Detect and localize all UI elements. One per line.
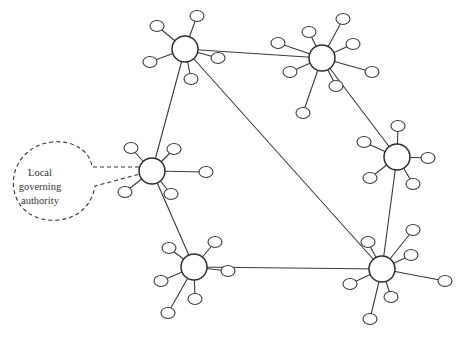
leaf-node <box>363 314 377 325</box>
leaf-node <box>406 179 420 190</box>
leaf-node <box>208 237 222 248</box>
leaf-node <box>161 308 175 319</box>
leaf-node <box>357 137 371 148</box>
leaf-node <box>211 53 225 64</box>
leaf-node <box>336 14 350 25</box>
leaf-node <box>184 74 198 85</box>
leaf-node <box>221 266 235 277</box>
hub-top-right <box>309 45 335 71</box>
leaf-node <box>406 225 420 236</box>
leaf-node <box>143 57 157 68</box>
leaf-node <box>421 153 435 164</box>
leaf-node <box>346 39 360 50</box>
leaf-node <box>343 279 357 290</box>
callout-line-1: Local <box>8 166 72 180</box>
leaf-node <box>118 187 132 198</box>
hub-top-left <box>172 36 198 62</box>
leaf-node <box>167 144 181 155</box>
leaf-node <box>150 21 164 32</box>
leaf-node <box>124 143 138 154</box>
leaf-node <box>154 276 168 287</box>
leaf-node <box>391 121 405 132</box>
edge-hub-top-left-hub-top-right <box>185 49 322 58</box>
leaf-node <box>329 81 343 92</box>
callout-line-2: governing <box>8 180 72 194</box>
hub-right-mid <box>384 144 410 170</box>
leaf-node <box>384 292 398 303</box>
leaf-node <box>361 237 375 248</box>
leaf-node <box>404 250 418 261</box>
leaf-node <box>283 67 297 78</box>
callout-line-3: authority <box>8 194 72 208</box>
leaf-node <box>162 243 176 254</box>
leaf-node <box>188 294 202 305</box>
leaf-node <box>199 167 213 178</box>
leaf-node <box>438 276 452 287</box>
leaf-node <box>164 189 178 200</box>
hub-bottom-right <box>369 256 395 282</box>
hub-bottom-left <box>181 254 207 280</box>
leaf-node <box>363 173 377 184</box>
leaf-node <box>302 27 316 38</box>
leaf-node <box>296 108 310 119</box>
leaf-node <box>190 11 204 22</box>
hub-left-mid <box>139 158 165 184</box>
leaf-node <box>365 67 379 78</box>
leaf-node <box>271 38 285 49</box>
callout-label: Local governing authority <box>8 166 72 208</box>
